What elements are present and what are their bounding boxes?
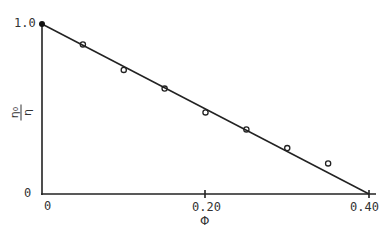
y-tick-label-top: 1.0: [14, 16, 36, 30]
data-point: [326, 161, 331, 166]
x-axis-title: Φ: [200, 214, 209, 228]
fit-line: [42, 24, 369, 194]
x-tick-label-0: 0: [44, 199, 51, 213]
data-point: [203, 110, 208, 115]
y-tick-label-bottom: 0: [24, 186, 31, 200]
y-axis-title-denominator: η: [22, 105, 34, 121]
intercept-point: [39, 21, 45, 27]
y-axis-title: η₀ η: [9, 105, 34, 121]
x-tick-label-0.40: 0.40: [350, 200, 379, 214]
data-points: [80, 42, 330, 166]
data-point: [121, 67, 126, 72]
data-point: [285, 146, 290, 151]
x-tick-label-0.20: 0.20: [192, 200, 221, 214]
